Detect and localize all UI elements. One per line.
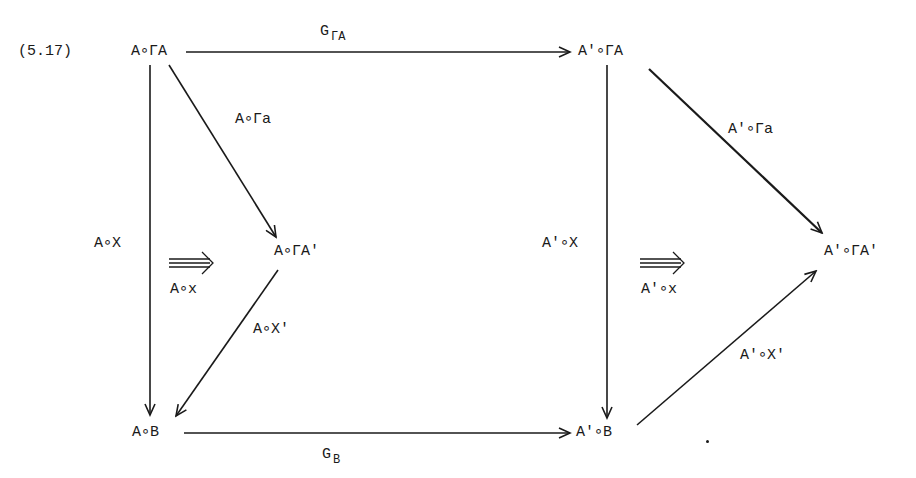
label-right-diag-up: A'∘X' xyxy=(740,348,785,363)
node-mid-left: A∘ΓA' xyxy=(274,244,319,259)
label-top-morphism: GΓA xyxy=(320,24,345,39)
arrow-right-diag-down xyxy=(649,69,822,233)
node-bottom-left: A∘B xyxy=(132,425,159,440)
node-mid-right: A'∘ΓA' xyxy=(824,244,878,259)
commutative-diagram: (5.17) A∘ΓA A'∘ΓA A∘ΓA' A'∘ΓA' A∘B A'∘B … xyxy=(0,0,916,478)
label-right-vertical: A'∘X xyxy=(542,236,578,251)
label-left-diag-up: A∘X' xyxy=(253,322,289,337)
label-bottom-morphism: GB xyxy=(322,447,340,462)
period-dot xyxy=(706,440,709,443)
label-left-vertical: A∘X xyxy=(94,236,121,251)
equation-number: (5.17) xyxy=(18,44,72,59)
label-right-diag-down: A'∘Γa xyxy=(728,122,773,137)
label-left-diag-down: A∘Γa xyxy=(235,112,271,127)
node-top-left: A∘ΓA xyxy=(131,44,167,59)
label-two-cell-right: A'∘x xyxy=(641,282,677,297)
arrow-left-diag-down xyxy=(169,65,276,237)
node-bottom-right: A'∘B xyxy=(576,425,612,440)
arrow-layer xyxy=(0,0,916,478)
label-two-cell-left: A∘x xyxy=(170,282,197,297)
node-top-right: A'∘ΓA xyxy=(578,44,623,59)
